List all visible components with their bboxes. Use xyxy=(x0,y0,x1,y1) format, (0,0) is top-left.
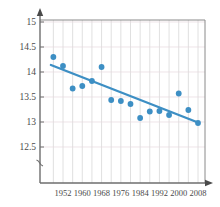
x-axis-arrowhead xyxy=(205,180,213,186)
y-axis-arrowhead xyxy=(37,8,43,16)
chart-container: 1514.51413.51312.5 195219601968197619841… xyxy=(0,0,220,207)
x-axis-tick-label: 1992 xyxy=(151,188,168,198)
y-axis-tick-label: 12.5 xyxy=(19,142,36,152)
x-axis-tick-label: 1960 xyxy=(74,188,91,198)
data-point xyxy=(157,108,163,114)
y-axis-tick-label: 15 xyxy=(27,17,37,27)
y-axis-tick-label: 14.5 xyxy=(19,42,36,52)
y-axis-tick-labels: 1514.51413.51312.5 xyxy=(19,17,36,152)
x-axis-tick-label: 1976 xyxy=(112,188,129,198)
x-axis-tick-label: 1968 xyxy=(93,188,110,198)
data-point xyxy=(128,101,134,107)
y-axis-tick-label: 13.5 xyxy=(19,92,36,102)
x-axis-tick-label: 2008 xyxy=(190,188,207,198)
data-point xyxy=(166,112,172,118)
data-point xyxy=(60,63,66,69)
data-point xyxy=(108,97,114,103)
data-point xyxy=(89,78,95,84)
data-point xyxy=(176,91,182,97)
data-point xyxy=(195,120,201,126)
data-point xyxy=(79,83,85,89)
x-axis-tick-label: 1952 xyxy=(55,188,72,198)
data-point xyxy=(147,109,153,115)
data-point xyxy=(118,98,124,104)
data-point xyxy=(99,64,105,70)
x-axis-tick-label: 2000 xyxy=(170,188,187,198)
y-axis-tick-label: 13 xyxy=(27,117,37,127)
data-point xyxy=(50,54,56,60)
scatter-plot: 1514.51413.51312.5 195219601968197619841… xyxy=(0,0,220,207)
data-point xyxy=(185,107,191,113)
x-axis-tick-label: 1984 xyxy=(132,188,150,198)
x-axis-tick-labels: 19521960196819761984199220002008 xyxy=(55,188,207,198)
data-point xyxy=(137,115,143,121)
data-point xyxy=(70,86,76,92)
y-axis-tick-label: 14 xyxy=(27,67,37,77)
